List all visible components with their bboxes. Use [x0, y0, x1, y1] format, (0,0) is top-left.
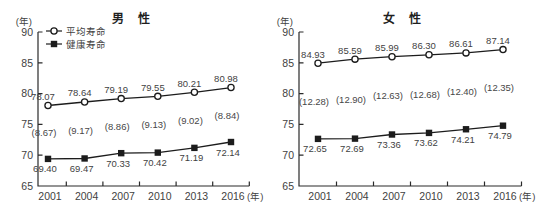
- gap-label: (12.28): [299, 96, 329, 107]
- male-chart-group: 657075808590200120042007201020132016(年)(…: [16, 11, 264, 202]
- value-label: 74.21: [451, 134, 475, 145]
- series-line: [318, 126, 503, 139]
- x-tick-label: 2007: [382, 190, 406, 202]
- value-label: 69.47: [70, 163, 94, 174]
- y-tick-label: 80: [282, 87, 294, 99]
- x-tick-label: 2016: [221, 190, 245, 202]
- filled-square-marker: [426, 130, 432, 136]
- y-tick-label: 65: [282, 180, 294, 192]
- x-tick-label: 2001: [308, 190, 332, 202]
- gap-label: (9.02): [178, 115, 203, 126]
- gap-label: (8.84): [215, 110, 240, 121]
- value-label: 79.19: [104, 84, 128, 95]
- filled-square-marker: [228, 139, 234, 145]
- gap-label: (8.67): [32, 127, 57, 138]
- y-axis-unit-label: (年): [277, 16, 293, 27]
- chart-title: 女 性: [383, 11, 425, 26]
- value-label: 72.65: [303, 143, 327, 154]
- legend-label: 健康寿命: [66, 39, 106, 50]
- filled-square-marker: [315, 136, 321, 142]
- open-circle-marker: [155, 93, 161, 99]
- gap-label: (9.13): [141, 119, 166, 130]
- filled-square-marker: [191, 145, 197, 151]
- gap-label: (12.68): [410, 89, 440, 100]
- open-circle-marker: [500, 47, 506, 53]
- filled-square-marker: [118, 150, 124, 156]
- legend-label: 平均寿命: [66, 26, 106, 37]
- series-line: [48, 142, 231, 159]
- value-label: 87.14: [486, 35, 510, 46]
- value-label: 72.69: [340, 143, 364, 154]
- open-circle-marker: [118, 95, 124, 101]
- open-circle-marker: [315, 60, 321, 66]
- value-label: 78.64: [68, 87, 92, 98]
- value-label: 80.21: [178, 78, 202, 89]
- gap-label: (12.40): [447, 86, 477, 97]
- value-label: 80.98: [214, 73, 238, 84]
- x-tick-label: 2016: [493, 190, 517, 202]
- y-tick-label: 70: [282, 149, 294, 161]
- value-label: 70.42: [143, 157, 167, 168]
- filled-square-marker: [500, 122, 506, 128]
- x-tick-label: 2010: [419, 190, 443, 202]
- value-label: 86.30: [412, 40, 436, 51]
- gap-label: (12.35): [484, 82, 514, 93]
- open-circle-marker: [463, 50, 469, 56]
- gap-label: (9.17): [68, 125, 93, 136]
- open-circle-marker: [191, 89, 197, 95]
- open-circle-marker: [426, 52, 432, 58]
- y-tick-label: 85: [21, 57, 33, 69]
- gap-label: (12.90): [336, 94, 366, 105]
- value-label: 78.07: [31, 91, 55, 102]
- x-tick-label: 2001: [38, 190, 62, 202]
- open-circle-marker: [45, 102, 51, 108]
- x-axis-unit-label: (年): [519, 191, 535, 202]
- x-tick-label: 2004: [75, 190, 99, 202]
- life-expectancy-dual-chart: 657075808590200120042007201020132016(年)(…: [0, 0, 545, 213]
- filled-square-marker: [51, 41, 57, 47]
- gap-label: (8.86): [105, 121, 130, 132]
- filled-square-marker: [45, 156, 51, 162]
- x-tick-label: 2013: [456, 190, 480, 202]
- value-label: 69.40: [33, 163, 57, 174]
- y-tick-label: 90: [282, 26, 294, 38]
- value-label: 73.36: [377, 139, 401, 150]
- open-circle-marker: [228, 84, 234, 90]
- female-chart-group: 657075808590200120042007201020132016(年)(…: [277, 11, 536, 202]
- open-circle-marker: [51, 28, 57, 34]
- chart-title: 男 性: [112, 11, 154, 26]
- y-axis-unit-label: (年): [16, 16, 32, 27]
- y-tick-label: 85: [282, 57, 294, 69]
- value-label: 73.62: [414, 137, 438, 148]
- x-tick-label: 2010: [148, 190, 172, 202]
- x-axis-unit-label: (年): [247, 191, 263, 202]
- chart-canvas: 657075808590200120042007201020132016(年)(…: [0, 0, 545, 213]
- value-label: 84.93: [301, 49, 325, 60]
- filled-square-marker: [155, 149, 161, 155]
- value-label: 74.79: [488, 130, 512, 141]
- y-tick-label: 75: [282, 118, 294, 130]
- value-label: 71.19: [180, 152, 204, 163]
- value-label: 72.14: [216, 147, 240, 158]
- y-tick-label: 90: [21, 26, 33, 38]
- y-tick-label: 70: [21, 149, 33, 161]
- x-tick-label: 2013: [185, 190, 209, 202]
- filled-square-marker: [463, 126, 469, 132]
- open-circle-marker: [389, 54, 395, 60]
- y-tick-label: 65: [21, 180, 33, 192]
- x-tick-label: 2004: [345, 190, 369, 202]
- value-label: 79.55: [141, 82, 165, 93]
- gap-label: (12.63): [373, 90, 403, 101]
- filled-square-marker: [81, 155, 87, 161]
- open-circle-marker: [352, 56, 358, 62]
- value-label: 86.61: [449, 38, 473, 49]
- open-circle-marker: [82, 99, 88, 105]
- value-label: 85.59: [338, 45, 362, 56]
- filled-square-marker: [389, 131, 395, 137]
- x-tick-label: 2007: [112, 190, 136, 202]
- value-label: 85.99: [375, 42, 399, 53]
- value-label: 70.33: [106, 158, 130, 169]
- filled-square-marker: [352, 135, 358, 141]
